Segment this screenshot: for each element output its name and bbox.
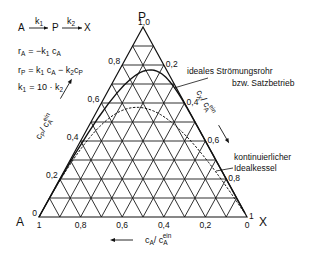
annotation-pfr-line2: bzw. Satzbetrieb — [232, 78, 295, 88]
bottom-axis-tick-label: 1 — [37, 220, 42, 230]
grid-line-x — [226, 198, 236, 217]
svg-text:cA/ cAein: cA/ cAein — [145, 232, 172, 246]
grid-line-a — [112, 84, 185, 217]
bottom-axis-tick-label: 0,4 — [158, 220, 170, 230]
scheme-X: X — [84, 22, 91, 33]
right-axis-tick-label: 1 — [249, 211, 254, 221]
left-axis-tick-label: 0,4 — [67, 132, 79, 142]
bottom-axis-title: cA/ cAein — [110, 232, 172, 246]
reaction-scheme: A k1 P k2 X — [18, 16, 91, 33]
bottom-axis-tick-label: 0,6 — [116, 220, 128, 230]
vertex-label-X: X — [259, 215, 267, 229]
right-axis-tick-label: 0,2 — [166, 59, 178, 69]
arrowhead-k1-icon — [44, 26, 48, 29]
bottom-axis-tick-label: 0,8 — [75, 220, 87, 230]
ternary-diagram: A k1 P k2 X rA= −k1 cA rP= k1 cA − k2cP … — [0, 0, 317, 257]
right-axis-arrow — [219, 125, 228, 141]
bottom-axis-arrowhead-icon — [110, 238, 115, 242]
bottom-axis-tick-label: 0 — [245, 220, 250, 230]
right-axis-tick-label: 0,6 — [207, 135, 219, 145]
left-axis-tick-label: 0 — [32, 208, 37, 218]
scheme-P: P — [52, 22, 59, 33]
annotation-cstr-line1: kontinuierlicher — [234, 152, 291, 162]
grid-line-a — [91, 122, 143, 217]
svg-text:cP/ cAein: cP/ cAein — [31, 111, 56, 142]
arrowhead-k2-icon — [78, 26, 82, 29]
bottom-axis-ticks: 10,80,60,40,20 — [37, 220, 250, 230]
rate-equation-P: rP= k1 cA − k2cP — [18, 65, 83, 76]
k2-label: k2 — [67, 16, 76, 27]
annotation-cstr: kontinuierlicher Idealkessel — [216, 152, 291, 173]
annotation-pfr-leader — [174, 78, 208, 88]
right-axis-arrowhead-icon — [225, 138, 231, 144]
grid-line-a — [70, 160, 101, 217]
left-axis-tick-label: 0,6 — [88, 94, 100, 104]
left-axis-tick-label: 0,2 — [46, 170, 58, 180]
k1-label: k1 — [35, 16, 44, 27]
scheme-A: A — [18, 22, 25, 33]
left-axis-tick-label: 1,0 — [138, 17, 150, 27]
grid-line-a — [49, 198, 59, 217]
grid-line-x — [143, 122, 195, 217]
vertex-label-A: A — [16, 215, 24, 229]
left-axis-tick-label: 0,8 — [108, 56, 120, 66]
rate-equation-A: rA= −k1 cA — [18, 46, 62, 57]
annotation-pfr-line1: ideales Strömungsrohr — [187, 66, 273, 76]
left-axis-arrowhead-icon — [68, 78, 74, 84]
rate-constant-ratio: k1= 10 · k2 — [18, 82, 63, 93]
annotation-cstr-leader — [216, 168, 233, 171]
right-axis-tick-label: 0,8 — [228, 173, 240, 183]
annotation-cstr-line2: Idealkessel — [234, 163, 277, 173]
grid-line-x — [101, 84, 174, 217]
annotation-plug-flow: ideales Strömungsrohr bzw. Satzbetrieb — [174, 66, 295, 88]
bottom-axis-tick-label: 0,2 — [199, 220, 211, 230]
grid-line-x — [185, 160, 216, 217]
